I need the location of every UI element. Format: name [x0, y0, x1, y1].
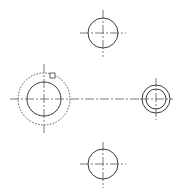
cad-drawing-canvas[interactable] [0, 0, 183, 196]
top-hole[interactable] [80, 10, 126, 57]
bottom-hole[interactable] [80, 142, 126, 188]
left-hole[interactable] [10, 64, 70, 134]
drawing-svg [0, 0, 183, 196]
grip-handle-icon[interactable] [50, 73, 55, 78]
right-hole[interactable] [140, 78, 173, 120]
